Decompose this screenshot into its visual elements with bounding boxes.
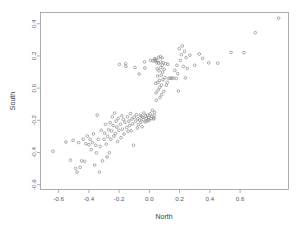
data-point [157,89,160,92]
data-point [52,150,55,153]
data-point [97,138,100,141]
data-point [77,141,80,144]
data-point [143,61,146,64]
data-point [120,136,123,139]
y-tick-label: -0.4 [30,147,37,158]
data-point [141,125,144,128]
data-point [134,120,137,123]
data-point [86,135,89,138]
axis-frame [41,13,289,190]
data-point [155,92,158,95]
x-axis-ticks: -0.6-0.4-0.20.00.20.40.6 [53,190,245,202]
y-axis-ticks: -0.6-0.4-0.20.00.20.4 [30,19,41,190]
data-point [159,96,162,99]
data-point [243,51,246,54]
data-point [135,113,138,116]
data-point [113,112,116,115]
data-point [277,17,280,20]
y-tick-label: 0.0 [30,83,37,92]
plot-border [41,13,289,190]
data-point [163,68,166,71]
data-point [182,65,185,68]
x-tick-label: 0.2 [175,195,184,202]
data-point [151,109,154,112]
data-point [134,66,137,69]
data-point [186,67,189,70]
data-point [79,166,82,169]
data-point [100,129,103,132]
data-point [116,140,119,143]
data-point [137,123,140,126]
x-tick-label: -0.6 [53,195,64,202]
y-tick-label: 0.4 [30,19,37,28]
data-point [103,138,106,141]
data-point [90,148,93,151]
data-point [96,114,99,117]
data-point [124,62,127,65]
data-point [88,143,91,146]
data-point [178,47,181,50]
y-tick-label: 0.2 [30,51,37,60]
data-point [230,51,233,54]
data-point [74,167,77,170]
data-point [104,123,107,126]
x-tick-label: 0.6 [236,195,245,202]
data-point [117,129,120,132]
x-tick-label: -0.4 [84,195,95,202]
data-point [85,142,88,145]
data-point [143,112,146,115]
data-point [94,144,97,147]
data-point [125,126,128,129]
data-point [127,130,130,133]
data-point [193,64,196,67]
data-point [99,145,102,148]
x-tick-label: -0.2 [114,195,125,202]
data-point [65,141,68,144]
data-point [126,115,129,118]
data-point [118,63,121,66]
data-point [109,138,112,141]
data-point [216,62,219,65]
data-point [166,81,169,84]
plot-area: -0.6-0.4-0.20.00.20.40.6 -0.6-0.4-0.20.0… [0,0,306,229]
data-point [91,141,94,144]
data-point [106,156,109,159]
data-point [98,171,101,174]
data-point [162,90,165,93]
data-point [115,120,118,123]
data-point [72,139,75,142]
data-point [176,72,179,75]
data-point [112,124,115,127]
data-point [110,129,113,132]
data-point [177,90,180,93]
data-point [181,45,184,48]
data-point [128,120,131,123]
data-point [116,126,119,129]
data-point [89,138,92,141]
data-point [109,121,112,124]
data-point [92,133,95,136]
data-point [131,118,134,121]
data-point [175,77,178,80]
data-point [173,69,176,72]
data-point [83,160,86,163]
data-point [130,129,133,132]
data-point [121,114,124,117]
x-tick-label: 0.0 [145,195,154,202]
data-point [131,123,134,126]
data-point [155,99,158,102]
x-axis-title: North [155,213,172,220]
data-point [207,62,210,65]
data-point [82,138,85,141]
data-point [136,127,139,130]
data-point [125,65,128,68]
data-point [162,78,165,81]
data-point [106,135,109,138]
data-point [165,84,168,87]
y-axis-title: South [9,92,16,110]
data-points-layer [52,17,280,174]
data-point [156,75,159,78]
data-point [156,67,159,70]
data-point [124,121,127,124]
data-point [129,112,132,115]
